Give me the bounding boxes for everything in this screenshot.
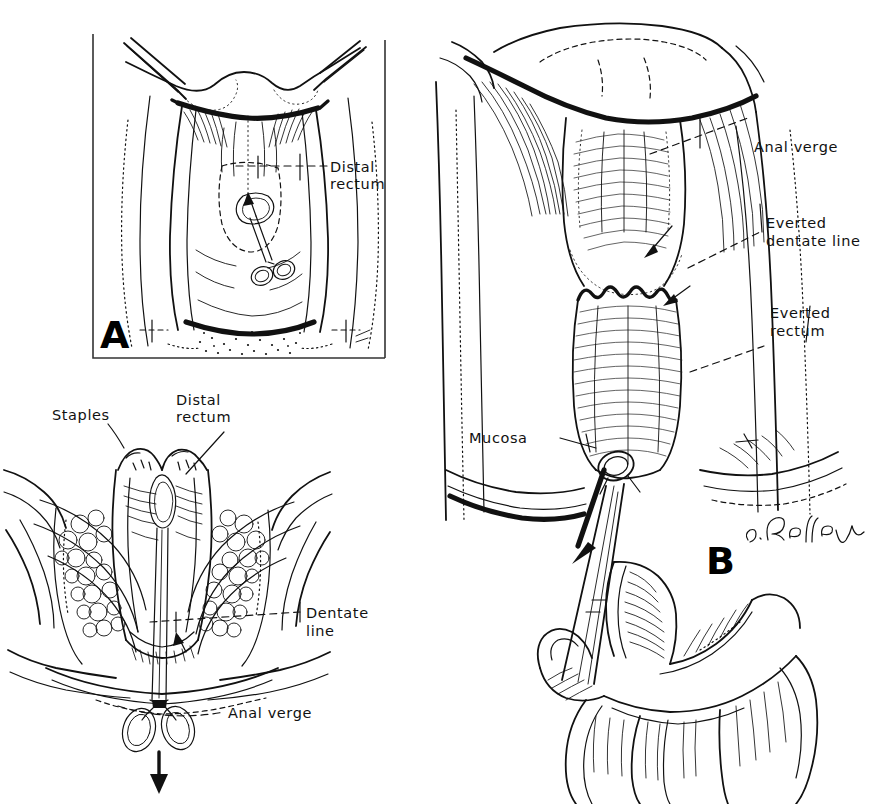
label-dentate-line-line1: Dentate — [306, 605, 369, 621]
label-b-anal-verge: Anal verge — [754, 139, 838, 155]
label-everted-dentate-line1: Everted — [766, 215, 827, 231]
label-dentate-line-line2: line — [306, 623, 335, 639]
panel-b-letter: B — [706, 539, 735, 583]
label-everted-rectum-line2: rectum — [770, 323, 825, 339]
label-everted-rectum-line1: Everted — [770, 305, 831, 321]
label-sag-distal-rectum-line1: Distal — [176, 392, 221, 408]
panel-a-letter: A — [100, 313, 130, 357]
surgical-figure-svg: Distal rectum A — [0, 0, 886, 804]
figure-root: Distal rectum A — [0, 0, 886, 804]
label-distal-rectum-line2: rectum — [330, 176, 385, 192]
label-staples: Staples — [52, 407, 110, 423]
label-distal-rectum-line1: Distal — [330, 159, 375, 175]
label-sag-distal-rectum-line2: rectum — [176, 409, 231, 425]
label-mucosa: Mucosa — [469, 430, 528, 446]
label-sag-anal-verge: Anal verge — [228, 705, 312, 721]
label-everted-dentate-line2: dentate line — [766, 233, 860, 249]
